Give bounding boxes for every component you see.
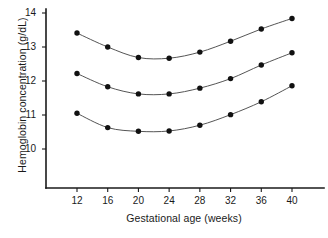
y-axis-title: Hemoglobin concentration (g/dL)	[14, 0, 30, 190]
data-point-marker	[228, 76, 233, 81]
x-tick-label: 32	[219, 195, 243, 206]
data-point-marker	[166, 128, 171, 133]
data-point-marker	[197, 49, 202, 54]
x-tick-label: 20	[126, 195, 150, 206]
data-point-marker	[74, 71, 79, 76]
data-point-marker	[289, 50, 294, 55]
data-point-marker	[289, 83, 294, 88]
x-tick-label: 40	[280, 195, 304, 206]
data-point-marker	[197, 85, 202, 90]
data-point-marker	[289, 16, 294, 21]
data-point-marker	[105, 44, 110, 49]
x-tick-label: 16	[96, 195, 120, 206]
data-point-marker	[74, 111, 79, 116]
x-tick-label: 12	[65, 195, 89, 206]
x-tick-label: 36	[249, 195, 273, 206]
data-point-marker	[197, 123, 202, 128]
hemoglobin-gestational-age-chart: 1413121110 1216202428323640 Gestational …	[0, 0, 328, 238]
data-point-marker	[166, 91, 171, 96]
data-point-marker	[105, 84, 110, 89]
data-point-marker	[228, 39, 233, 44]
data-point-marker	[105, 125, 110, 130]
series-middle-curve	[74, 50, 294, 97]
series-lower-curve	[74, 83, 294, 134]
series-upper-curve	[74, 16, 294, 61]
data-point-marker	[228, 112, 233, 117]
x-tick-label: 28	[188, 195, 212, 206]
data-point-marker	[259, 26, 264, 31]
series-group	[74, 16, 294, 134]
data-point-marker	[166, 56, 171, 61]
x-axis-title: Gestational age (weeks)	[40, 212, 328, 224]
data-point-marker	[259, 99, 264, 104]
series-line	[77, 18, 292, 58]
data-point-marker	[136, 91, 141, 96]
data-point-marker	[74, 30, 79, 35]
data-point-marker	[136, 55, 141, 60]
data-point-marker	[259, 62, 264, 67]
x-tick-label: 24	[157, 195, 181, 206]
series-line	[77, 86, 292, 132]
data-point-marker	[136, 129, 141, 134]
